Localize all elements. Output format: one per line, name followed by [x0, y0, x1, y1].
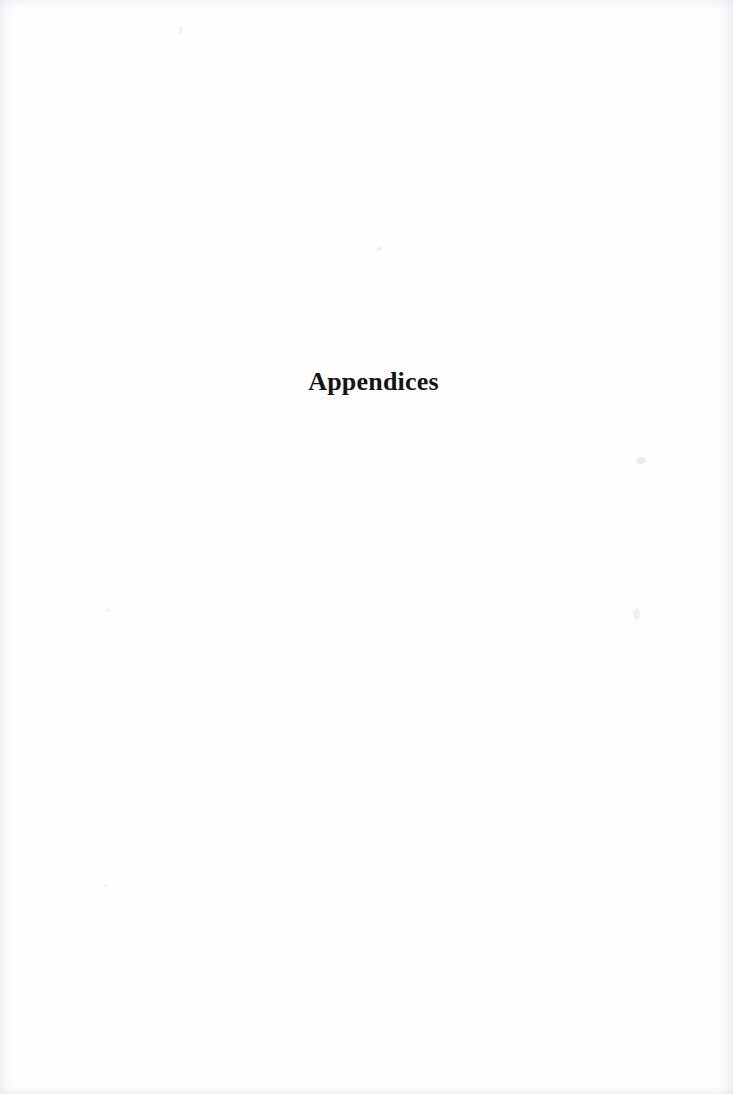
scanned-page: Appendices: [0, 0, 733, 1094]
scan-speck: [179, 26, 183, 34]
scan-speck: [105, 608, 110, 612]
scan-speck: [636, 457, 646, 464]
page-title: Appendices: [0, 366, 733, 398]
scan-speck: [104, 884, 108, 887]
scan-edge-shadow-left: [0, 0, 22, 1094]
scan-edge-shadow-right: [707, 0, 733, 1094]
scan-speck: [377, 247, 382, 251]
scan-speck: [633, 608, 640, 620]
paper-background: [0, 0, 733, 1094]
scan-edge-shadow-top: [0, 0, 733, 18]
scan-edge-shadow-bottom: [0, 1078, 733, 1094]
